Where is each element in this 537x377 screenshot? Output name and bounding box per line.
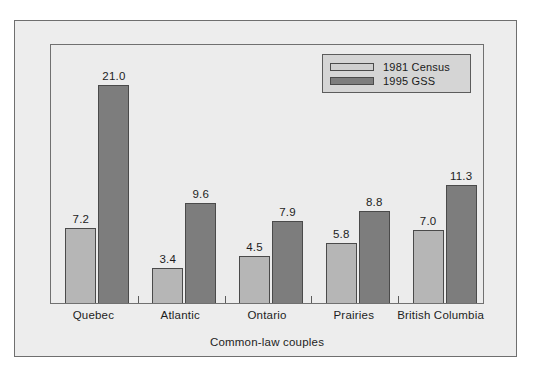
legend-swatch-1981-census-icon	[330, 63, 374, 71]
bar-atlantic-1995-gss[interactable]: 9.6	[185, 45, 216, 303]
x-axis-tick-label-line: British Columbia	[397, 309, 484, 321]
x-axis-tick-label-line: Atlantic	[161, 309, 200, 321]
bar-rect[interactable]	[65, 228, 96, 303]
bar-rect[interactable]	[326, 243, 357, 303]
bar-ontario-1995-gss[interactable]: 7.9	[272, 45, 303, 303]
bar-value-label: 3.4	[145, 253, 191, 265]
bar-value-label: 7.2	[58, 213, 104, 225]
legend-label-1981-census: 1981 Census	[383, 61, 450, 73]
x-axis-tick-label-line: Quebec	[73, 309, 114, 321]
bar-quebec-1995-gss[interactable]: 21.0	[98, 45, 129, 303]
x-axis-tick-label: British Columbia	[386, 309, 496, 322]
bar-rect[interactable]	[446, 185, 477, 303]
legend-item-1995-gss: 1995 GSS	[330, 74, 463, 88]
bar-group-quebec: 7.221.0	[65, 45, 129, 303]
x-axis-tick	[398, 296, 399, 303]
x-axis-tick	[225, 296, 226, 303]
bar-rect[interactable]	[239, 256, 270, 303]
chart-legend: 1981 Census 1995 GSS	[322, 54, 471, 93]
bar-value-label: 5.8	[318, 228, 364, 240]
x-axis-tick-label-line: Ontario	[247, 309, 286, 321]
bar-quebec-1981-census[interactable]: 7.2	[65, 45, 96, 303]
legend-label-1995-gss: 1995 GSS	[383, 75, 435, 87]
bar-value-label: 9.6	[178, 188, 224, 200]
bar-ontario-1981-census[interactable]: 4.5	[239, 45, 270, 303]
x-axis-tick	[138, 296, 139, 303]
x-axis-tick-label-line: Prairies	[334, 309, 375, 321]
bar-value-label: 21.0	[91, 70, 137, 82]
bar-rect[interactable]	[98, 85, 129, 303]
bar-rect[interactable]	[272, 221, 303, 303]
bar-atlantic-1981-census[interactable]: 3.4	[152, 45, 183, 303]
bar-group-atlantic: 3.49.6	[152, 45, 216, 303]
bar-rect[interactable]	[413, 230, 444, 303]
bar-value-label: 11.3	[438, 170, 484, 182]
x-axis-tick	[311, 296, 312, 303]
bar-rect[interactable]	[152, 268, 183, 303]
bar-rect[interactable]	[359, 211, 390, 303]
x-axis-title: Common-law couples	[50, 336, 484, 348]
bar-value-label: 4.5	[232, 241, 278, 253]
bar-group-ontario: 4.57.9	[239, 45, 303, 303]
bar-value-label: 7.0	[405, 215, 451, 227]
bar-rect[interactable]	[185, 203, 216, 303]
chart-figure: 7.221.03.49.64.57.95.88.87.011.3 1981 Ce…	[0, 0, 537, 377]
legend-swatch-1995-gss-icon	[330, 77, 374, 85]
bar-value-label: 7.9	[265, 206, 311, 218]
legend-item-1981-census: 1981 Census	[330, 60, 463, 74]
bar-value-label: 8.8	[351, 196, 397, 208]
